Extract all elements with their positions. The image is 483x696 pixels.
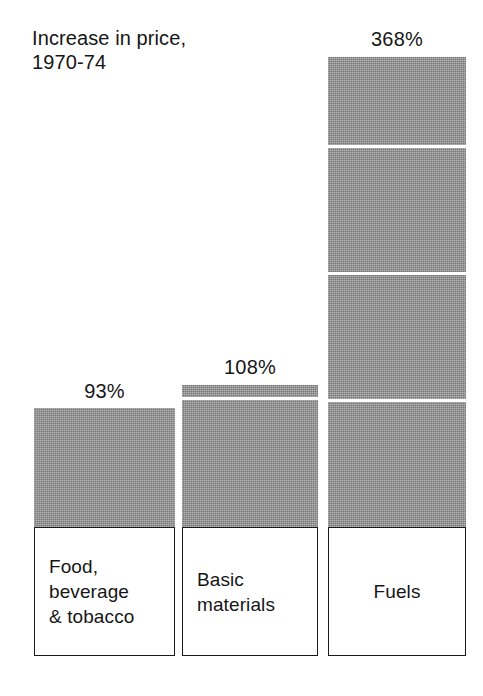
bar-divider-basic-materials-100 [182,397,318,400]
bar-divider-fuels-300 [328,145,466,148]
bar-fill-fuels [328,57,466,527]
bar-value-fuels: 368% [328,28,466,50]
bar-divider-fuels-200 [328,272,466,275]
bar-label-text-basic-materials: Basic materials [183,567,281,617]
bar-value-basic-materials: 108% [182,356,318,378]
bar-fill-basic-materials [182,385,318,527]
bar-label-text-food-beverage-tobacco: Food, beverage & tobacco [35,554,140,629]
bar-label-box-fuels: Fuels [328,527,466,656]
price-increase-bar-chart: Increase in price, 1970-74 93% Food, bev… [0,0,483,696]
bar-label-box-basic-materials: Basic materials [182,527,318,656]
bar-divider-fuels-100 [328,399,466,402]
bar-label-box-food-beverage-tobacco: Food, beverage & tobacco [34,527,175,656]
bar-fill-food-beverage-tobacco [34,408,175,527]
bar-value-food-beverage-tobacco: 93% [34,380,175,402]
bar-label-text-fuels: Fuels [329,579,465,604]
chart-title: Increase in price, 1970-74 [32,26,292,74]
